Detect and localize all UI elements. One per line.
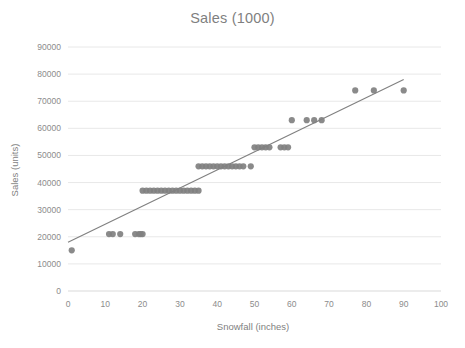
y-axis-tick-labels: 0100002000030000400005000060000700008000… — [37, 42, 61, 296]
y-tick-label: 70000 — [37, 96, 61, 106]
data-point — [371, 87, 377, 93]
data-point — [195, 188, 201, 194]
y-tick-label: 80000 — [37, 69, 61, 79]
data-point — [69, 247, 75, 253]
data-point — [240, 163, 246, 169]
y-tick-label: 60000 — [37, 123, 61, 133]
x-tick-label: 50 — [250, 299, 260, 309]
x-tick-label: 60 — [287, 299, 297, 309]
x-axis-tick-labels: 0102030405060708090100 — [66, 299, 449, 309]
x-tick-label: 90 — [399, 299, 409, 309]
y-tick-label: 30000 — [37, 205, 61, 215]
x-axis-title: Snowfall (inches) — [217, 321, 289, 332]
trendline-segment — [68, 80, 404, 243]
x-tick-label: 20 — [138, 299, 148, 309]
x-tick-label: 30 — [175, 299, 185, 309]
y-tick-label: 50000 — [37, 150, 61, 160]
x-tick-label: 100 — [434, 299, 448, 309]
x-tick-label: 80 — [362, 299, 372, 309]
data-point — [140, 231, 146, 237]
data-point — [352, 87, 358, 93]
data-point — [304, 117, 310, 123]
y-tick-label: 10000 — [37, 259, 61, 269]
data-point — [117, 231, 123, 237]
data-point — [289, 117, 295, 123]
data-point — [248, 163, 254, 169]
data-point — [266, 144, 272, 150]
data-point — [319, 117, 325, 123]
data-points — [69, 87, 407, 253]
plot-area: 0100002000030000400005000060000700008000… — [0, 0, 465, 348]
y-tick-label: 20000 — [37, 232, 61, 242]
x-tick-label: 10 — [101, 299, 111, 309]
x-tick-label: 0 — [66, 299, 71, 309]
data-point — [285, 144, 291, 150]
x-tick-label: 40 — [212, 299, 222, 309]
y-axis-title: Sales (units) — [9, 144, 20, 197]
trendline — [68, 80, 404, 243]
y-tick-label: 90000 — [37, 42, 61, 52]
data-point — [311, 117, 317, 123]
scatter-chart: Sales (1000) 010000200003000040000500006… — [0, 0, 465, 348]
y-tick-label: 0 — [56, 286, 61, 296]
gridlines — [68, 47, 441, 264]
x-tick-label: 70 — [324, 299, 334, 309]
data-point — [110, 231, 116, 237]
y-tick-label: 40000 — [37, 178, 61, 188]
data-point — [401, 87, 407, 93]
